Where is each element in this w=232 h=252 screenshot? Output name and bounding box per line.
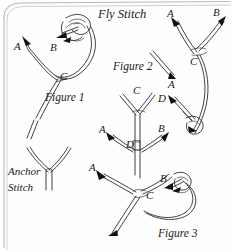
stitch-line-art xyxy=(0,0,232,252)
figure-2-artwork xyxy=(168,16,226,134)
figure-3-artwork xyxy=(96,93,196,236)
figure-1-artwork xyxy=(22,14,95,119)
stitch-diagram-page: Fly Stitch A B C Figure 1 Figure 2 A A B… xyxy=(0,0,232,252)
anchor-stitch-artwork xyxy=(27,147,71,190)
figure-1-tail xyxy=(27,120,38,139)
figure-2-needle xyxy=(150,51,176,79)
